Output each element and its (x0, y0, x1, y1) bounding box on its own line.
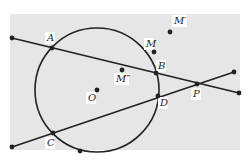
label-A: A (46, 32, 54, 43)
point-endpoint-left-top (10, 36, 15, 41)
point-B (154, 71, 159, 76)
label-M: M (145, 38, 157, 49)
label-O: O (88, 92, 96, 103)
point-M (152, 50, 157, 55)
label-B: B (157, 60, 165, 71)
point-circle-bottom-point (78, 149, 83, 154)
point-M-double-prime (120, 68, 125, 73)
point-endpoint-right-bottom (237, 91, 242, 96)
point-O (95, 88, 100, 93)
point-endpoint-left-bottom (10, 145, 15, 150)
label-M-double-prime: M″ (115, 73, 130, 84)
label-C: C (47, 137, 55, 148)
point-D (156, 94, 161, 99)
label-M-prime: M′ (173, 15, 187, 26)
point-A (50, 46, 55, 51)
point-C (51, 131, 56, 136)
point-P (195, 82, 200, 87)
label-P: P (192, 88, 200, 99)
point-endpoint-right-top (232, 70, 237, 75)
point-M-prime (168, 30, 173, 35)
geometry-diagram: AMM′BM″ODPC (0, 0, 248, 163)
label-D: D (159, 97, 168, 108)
